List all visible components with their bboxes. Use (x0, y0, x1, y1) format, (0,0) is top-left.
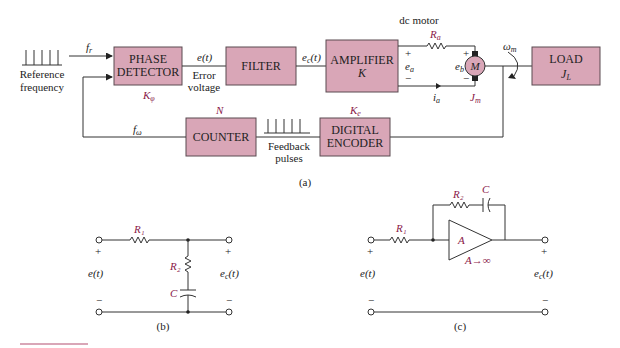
c-r1-resistor (374, 237, 449, 243)
feedback-label-2: pulses (275, 152, 303, 164)
dc-motor-title: dc motor (399, 14, 439, 26)
c-input-label: e(t) (360, 267, 376, 280)
b-out-minus: − (226, 294, 232, 306)
ia-arrow-icon (436, 83, 441, 89)
amplifier-line1: AMPLIFIER (330, 53, 393, 67)
c-out-plus-terminal (542, 237, 548, 243)
error-label-1: Error (192, 69, 216, 81)
b-node-bottom (186, 310, 190, 314)
b-r2-label: R₂ (169, 260, 181, 272)
caption-c: (c) (454, 320, 467, 333)
ia-label: ia (433, 91, 440, 105)
b-out-plus: + (225, 245, 231, 257)
phase-detector-gain: Kφ (142, 89, 155, 103)
c-in-minus: − (368, 294, 374, 306)
error-signal: e(t) (197, 51, 213, 64)
phase-detector-line1: PHASE (129, 52, 167, 66)
c-amp-note: A→∞ (464, 254, 491, 266)
fr-label: fr (86, 41, 93, 55)
ea-minus: − (405, 72, 411, 84)
fw-label: fω (133, 123, 142, 137)
c-in-minus-terminal (368, 309, 374, 315)
c-r2-label: R₂ (452, 188, 464, 200)
amplifier-line2: K (357, 66, 367, 80)
b-r1-resistor (102, 237, 226, 243)
b-c-label: C (170, 287, 178, 299)
ra-label: Ra (429, 28, 441, 42)
c-amp-label: A (457, 234, 465, 246)
c-r1-label: R₁ (395, 222, 407, 234)
encoder-gain: Ke (349, 104, 361, 118)
c-output-label: ec(t) (534, 267, 553, 281)
c-in-plus-terminal (368, 237, 374, 243)
ea-plus: + (405, 47, 411, 59)
error-label-2: voltage (188, 81, 220, 93)
b-r2-resistor (185, 240, 191, 290)
b-out-minus-terminal (226, 309, 232, 315)
counter-gain: N (215, 104, 224, 116)
b-in-plus-terminal (96, 237, 102, 243)
c-out-plus: + (541, 245, 547, 257)
b-out-plus-terminal (226, 237, 232, 243)
eb-plus: + (463, 47, 469, 59)
c-c-label: C (482, 183, 490, 195)
phase-detector-line2: DETECTOR (117, 65, 179, 79)
c-feedback-wire (488, 205, 505, 240)
ec-label: ec(t) (302, 51, 321, 65)
c-out-minus: − (542, 294, 548, 306)
b-in-plus: + (95, 245, 101, 257)
caption-a: (a) (299, 176, 312, 189)
encoder-line2: ENCODER (327, 136, 384, 150)
c-in-plus: + (367, 245, 373, 257)
reference-label-1: Reference (20, 68, 65, 80)
filter-label: FILTER (241, 59, 281, 73)
caption-b: (b) (157, 320, 170, 333)
c-out-minus-terminal (542, 309, 548, 315)
rotation-arc (508, 52, 518, 76)
feedback-label-1: Feedback (268, 140, 311, 152)
brush-top (472, 51, 478, 56)
b-input-label: e(t) (88, 267, 104, 280)
omega-label: ωm (503, 40, 517, 54)
feedback-pulses-icon (264, 119, 310, 133)
motor-symbol: M (469, 60, 480, 72)
load-line1: LOAD (549, 52, 583, 66)
brush-bottom (472, 76, 478, 81)
b-output-label: ec(t) (220, 267, 239, 281)
reference-label-2: frequency (20, 81, 64, 93)
b-in-minus-terminal (96, 309, 102, 315)
jm-label: Jm (470, 91, 481, 105)
encoder-line1: DIGITAL (331, 123, 379, 137)
reference-pulses-icon (22, 50, 62, 65)
b-in-minus: − (96, 294, 102, 306)
counter-label: COUNTER (193, 130, 250, 144)
b-r1-label: R₁ (133, 223, 145, 235)
pll-motor-control-figure: Reference frequency fr PHASE DETECTOR Kφ… (0, 0, 620, 348)
